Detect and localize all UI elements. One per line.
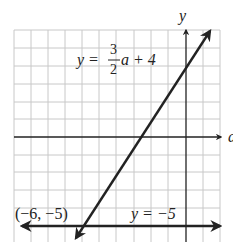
- y-axis-label: y: [177, 7, 187, 25]
- svg-text:=: =: [89, 51, 98, 68]
- equation-label-1: y = 3 2 a + 4: [75, 42, 156, 77]
- coordinate-graph: y a y = 3 2 a + 4 y = −5 (−6, −5): [0, 0, 233, 242]
- equation-label-2: y = −5: [129, 205, 176, 223]
- svg-text:a + 4: a + 4: [121, 51, 156, 68]
- svg-text:3: 3: [110, 42, 117, 57]
- a-axis-label: a: [228, 128, 233, 145]
- svg-text:y: y: [75, 51, 85, 69]
- svg-text:2: 2: [110, 62, 117, 77]
- intersection-point-label: (−6, −5): [15, 205, 68, 223]
